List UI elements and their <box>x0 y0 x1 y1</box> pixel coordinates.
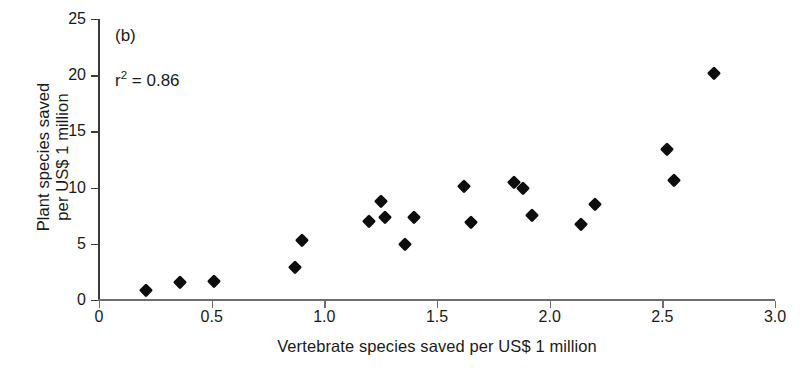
x-tick-label: 1.0 <box>313 308 335 326</box>
y-tick-label: 5 <box>77 235 86 253</box>
data-point <box>408 210 421 223</box>
x-axis-title: Vertebrate species saved per US$ 1 milli… <box>99 337 775 356</box>
data-point <box>588 198 601 211</box>
x-tick-label: 2.0 <box>539 308 561 326</box>
r-squared-value: = 0.86 <box>127 71 179 90</box>
y-tick-mark <box>91 75 98 76</box>
y-tick-label: 20 <box>68 66 86 84</box>
y-tick-mark <box>91 188 98 189</box>
x-tick-mark <box>99 301 100 308</box>
data-point <box>525 208 538 221</box>
y-tick-mark <box>91 244 98 245</box>
x-tick-mark <box>775 301 776 308</box>
data-point <box>173 275 186 288</box>
x-tick-mark <box>550 301 551 308</box>
y-tick-label: 10 <box>68 179 86 197</box>
y-axis-title-line1: Plant species saved <box>34 83 53 232</box>
x-tick-label: 0 <box>95 308 104 326</box>
x-tick-label: 3.0 <box>764 308 786 326</box>
data-point <box>363 215 376 228</box>
data-point <box>288 261 301 274</box>
y-axis-title: Plant species saved per US$ 1 million <box>22 2 84 312</box>
data-point <box>207 274 220 287</box>
y-tick-label: 25 <box>68 10 86 28</box>
data-point <box>457 180 470 193</box>
x-tick-mark <box>437 301 438 308</box>
data-point <box>464 216 477 229</box>
data-point <box>378 210 391 223</box>
x-tick-label: 2.5 <box>651 308 673 326</box>
y-axis-title-line2: per US$ 1 million <box>53 93 72 220</box>
data-point <box>574 217 587 230</box>
data-point <box>374 194 387 207</box>
y-axis-spine <box>98 19 100 300</box>
y-tick-mark <box>91 131 98 132</box>
panel-label: (b) <box>115 26 136 46</box>
y-tick-label: 0 <box>77 291 86 309</box>
y-tick-mark <box>91 300 98 301</box>
r-squared-annotation: r2 = 0.86 <box>115 69 180 91</box>
data-point <box>707 66 720 79</box>
x-tick-mark <box>662 301 663 308</box>
data-point <box>399 237 412 250</box>
scatter-plot-figure: Plant species saved per US$ 1 million (b… <box>0 0 808 373</box>
x-tick-mark <box>212 301 213 308</box>
data-point <box>295 234 308 247</box>
x-tick-label: 1.5 <box>426 308 448 326</box>
x-tick-label: 0.5 <box>201 308 223 326</box>
data-point <box>667 173 680 186</box>
y-tick-label: 15 <box>68 122 86 140</box>
data-point <box>140 283 153 296</box>
data-point <box>660 143 673 156</box>
y-tick-mark <box>91 19 98 20</box>
plot-area: (b) r2 = 0.86 0510152025 00.51.01.52.02.… <box>99 19 775 300</box>
x-tick-mark <box>324 301 325 308</box>
